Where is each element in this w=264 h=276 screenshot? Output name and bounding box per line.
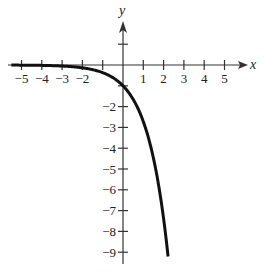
- axes: [8, 21, 248, 264]
- y-tick-label: −7: [102, 203, 116, 218]
- x-tick-label: −2: [75, 71, 89, 86]
- y-tick-label: −2: [102, 99, 116, 114]
- x-tick-label: 2: [160, 71, 167, 86]
- y-tick-label: −5: [102, 162, 116, 177]
- y-tick-label: −8: [102, 224, 116, 239]
- x-tick-label: 3: [181, 71, 188, 86]
- y-tick-label: −4: [102, 141, 116, 156]
- x-tick-label: 5: [221, 71, 228, 86]
- x-tick-label: 4: [201, 71, 208, 86]
- x-tick-label: 1: [140, 71, 147, 86]
- x-tick-label: −3: [55, 71, 69, 86]
- x-tick-label: −5: [15, 71, 29, 86]
- x-tick-label: −4: [35, 71, 49, 86]
- curve-neg-exp: [11, 65, 168, 256]
- y-tick-label: −6: [102, 182, 116, 197]
- y-axis-label: y: [117, 3, 126, 18]
- y-tick-label: −3: [102, 120, 116, 135]
- x-axis-label: x: [249, 57, 257, 72]
- graph-canvas: −5−4−3−212345−2−3−4−5−6−7−8−9 x y: [0, 0, 264, 276]
- y-tick-label: −9: [102, 245, 116, 260]
